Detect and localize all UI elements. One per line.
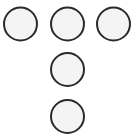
circle-bottom	[51, 100, 84, 133]
circle-top-right	[97, 8, 130, 41]
circle-top-left	[4, 8, 37, 41]
circle-middle	[51, 53, 84, 86]
circle-top-middle	[51, 8, 84, 41]
diagram-canvas	[0, 0, 133, 140]
circle-arrangement	[0, 0, 133, 140]
